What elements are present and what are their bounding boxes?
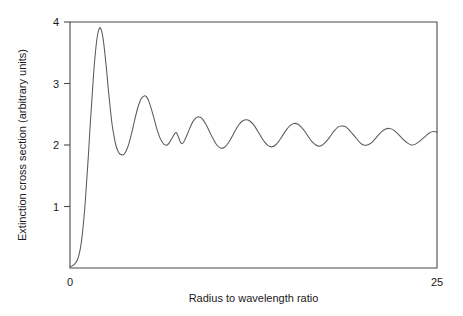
extinction-cross-section-plot: 1234 0 25 Radius to wavelength ratio Ext… xyxy=(0,0,463,316)
y-axis-tick-label: 1 xyxy=(53,201,59,213)
y-axis-ticks xyxy=(64,22,70,207)
x-axis-tick-label-min: 0 xyxy=(67,276,73,288)
y-axis-tick-label: 4 xyxy=(53,16,59,28)
extinction-curve xyxy=(70,28,437,267)
y-axis-tick-label: 3 xyxy=(53,78,59,90)
x-axis-tick-label-max: 25 xyxy=(431,276,443,288)
chart-figure: 1234 0 25 Radius to wavelength ratio Ext… xyxy=(0,0,463,316)
y-axis-title: Extinction cross section (arbitrary unit… xyxy=(16,49,28,241)
x-axis-title: Radius to wavelength ratio xyxy=(189,292,319,304)
y-axis-tick-labels: 1234 xyxy=(53,16,59,213)
plot-frame xyxy=(70,22,437,268)
y-axis-tick-label: 2 xyxy=(53,139,59,151)
